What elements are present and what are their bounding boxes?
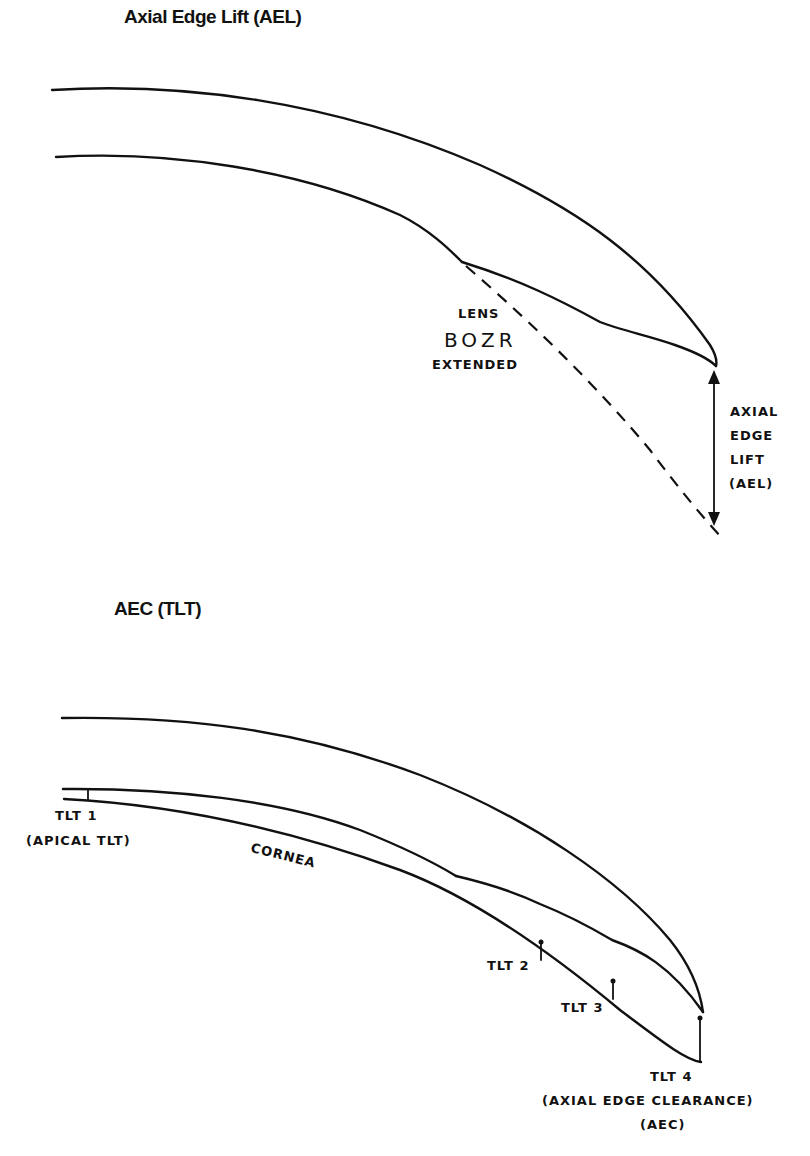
label-axial-edge-clearance: (AXIAL EDGE CLEARANCE) bbox=[542, 1093, 754, 1108]
tlt2-marker-dot bbox=[539, 940, 544, 945]
lens-back-surface bbox=[56, 156, 462, 262]
lens-peripheral-curve-2 bbox=[456, 876, 703, 1012]
label-axial: AXIAL bbox=[730, 404, 778, 419]
ael-figure bbox=[52, 88, 722, 538]
diagram-canvas bbox=[0, 0, 810, 1156]
bozr-extended-dashed bbox=[466, 266, 722, 538]
label-tlt4: TLT 4 bbox=[650, 1069, 692, 1084]
label-edge: EDGE bbox=[730, 428, 773, 443]
label-aec: (AEC) bbox=[640, 1117, 685, 1132]
label-lift: LIFT bbox=[730, 452, 765, 467]
label-ael: (AEL) bbox=[729, 476, 773, 491]
ael-arrow-head-down bbox=[708, 512, 720, 526]
label-tlt1: TLT 1 bbox=[55, 808, 97, 823]
aec-figure bbox=[62, 718, 703, 1062]
tlt4-marker-dot bbox=[698, 1016, 703, 1021]
label-tlt2: TLT 2 bbox=[487, 958, 529, 973]
label-extended: EXTENDED bbox=[432, 357, 518, 372]
label-apical-tlt: (APICAL TLT) bbox=[26, 833, 131, 848]
label-lens: LENS bbox=[458, 306, 499, 321]
label-bozr: BOZR bbox=[444, 328, 517, 352]
tlt3-marker-dot bbox=[611, 979, 616, 984]
label-tlt3: TLT 3 bbox=[561, 1000, 603, 1015]
lens-front-surface bbox=[52, 88, 716, 366]
figure-title-aec: AEC (TLT) bbox=[114, 598, 201, 620]
ael-arrow-head-up bbox=[708, 370, 720, 384]
